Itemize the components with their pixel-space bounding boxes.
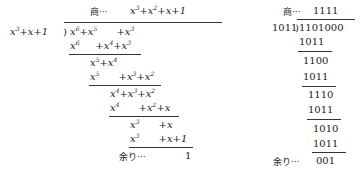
poly-rule-4 — [129, 147, 193, 148]
bin-row-3: 1011 — [303, 71, 328, 83]
poly-step-1-subtract: x6 +x4+x3 — [70, 40, 131, 52]
poly-rule-3 — [109, 116, 179, 117]
bin-rule-1 — [298, 51, 332, 52]
bin-quotient-bar — [297, 19, 355, 20]
poly-quotient-bar — [64, 22, 222, 23]
poly-step-3-subtract: x4 +x2+x — [110, 102, 170, 114]
poly-divisor: x3+x+1 — [10, 26, 48, 38]
poly-remainder: 1 — [185, 150, 191, 162]
bin-quotient: 1111 — [313, 5, 338, 17]
bin-quotient-label: 商··· — [283, 6, 301, 18]
bin-row-6: 1010 — [313, 123, 338, 135]
poly-bracket-icon: ) — [63, 26, 67, 38]
bin-remainder: 001 — [316, 155, 335, 167]
bin-rule-4 — [312, 152, 346, 153]
poly-rule-2 — [89, 85, 161, 86]
bin-row-1: 1011 — [299, 36, 324, 48]
bin-row-4: 1110 — [308, 89, 333, 101]
poly-dividend: x6+x5 +x3 — [70, 26, 134, 38]
bin-dividend: 1101000 — [299, 22, 344, 34]
poly-quotient-label: 商··· — [90, 6, 108, 18]
bin-rule-3 — [307, 119, 341, 120]
poly-remainder-label: 余り··· — [119, 151, 146, 163]
bin-rule-2 — [302, 86, 336, 87]
poly-step-2-result: x4+x3+x2 — [110, 88, 155, 100]
bin-remainder-label: 余り··· — [273, 156, 300, 168]
poly-rule-1 — [69, 54, 141, 55]
poly-step-2-subtract: x5 +x3+x2 — [90, 71, 154, 83]
bin-row-7: 1011 — [313, 138, 338, 150]
poly-step-4-result: x3 +x — [130, 119, 173, 131]
poly-step-4-subtract: x3 +x+1 — [130, 133, 187, 145]
poly-step-1-result: x5+x4 — [90, 57, 117, 69]
bin-row-5: 1011 — [308, 104, 333, 116]
bin-row-2: 1100 — [303, 55, 328, 67]
bin-divisor: 1011 — [272, 22, 297, 34]
poly-quotient: x3+x2+x+1 — [130, 5, 186, 17]
